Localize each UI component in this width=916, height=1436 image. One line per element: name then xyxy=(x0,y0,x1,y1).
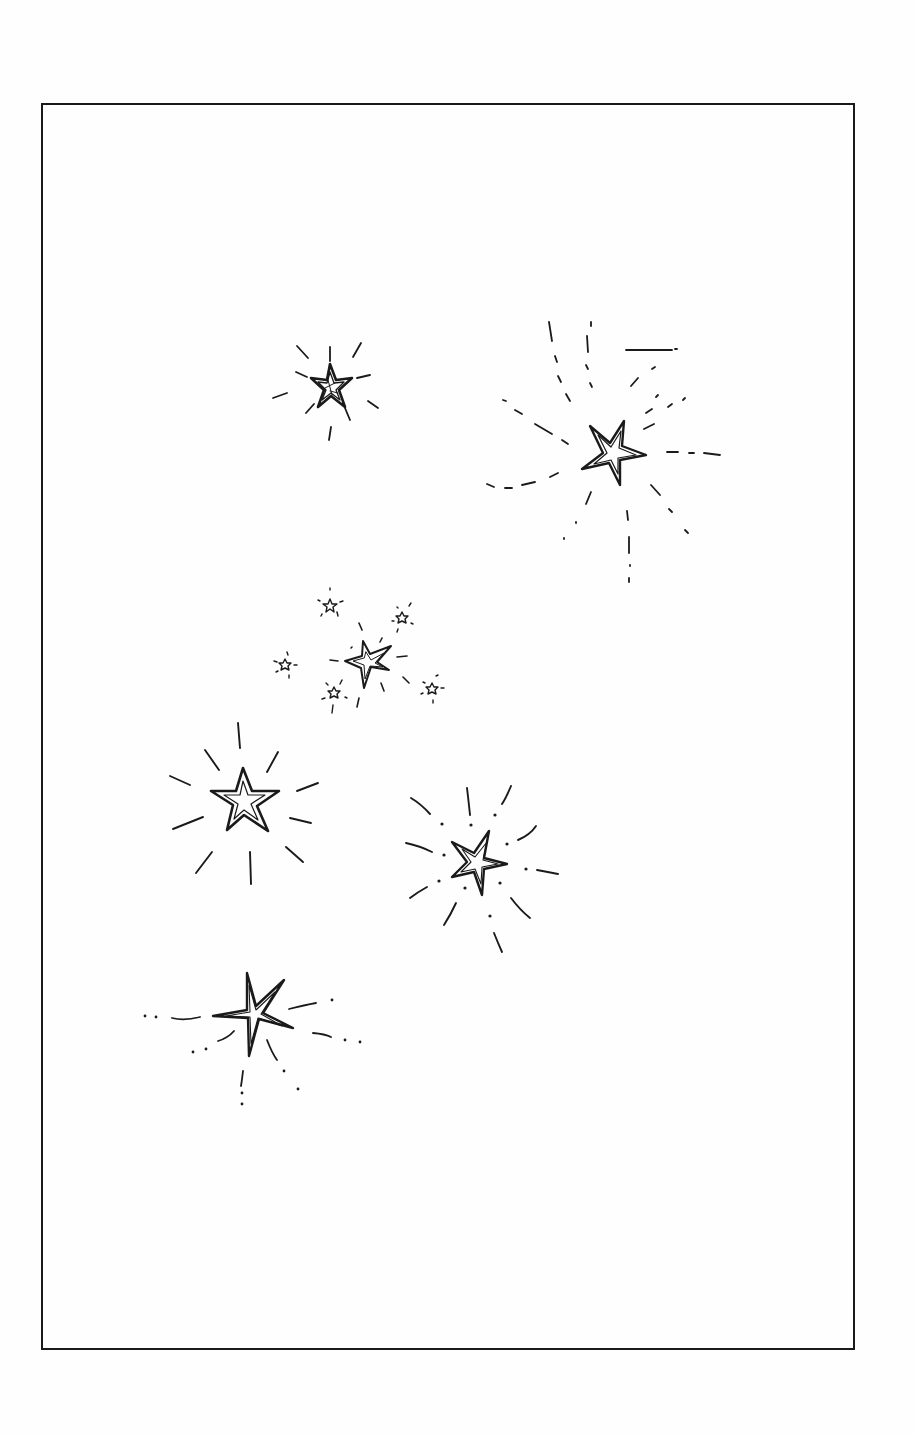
illustration-page: Star clusters line illustration xyxy=(0,0,916,1436)
star-illustration xyxy=(0,0,916,1436)
star-middle-right-icon xyxy=(406,786,558,952)
star-middle-left-icon xyxy=(170,723,318,884)
star-cluster-center-icon xyxy=(274,588,444,713)
star-top-left-icon xyxy=(273,343,378,440)
star-top-right-icon xyxy=(487,322,720,582)
star-bottom-left-icon xyxy=(144,973,362,1105)
